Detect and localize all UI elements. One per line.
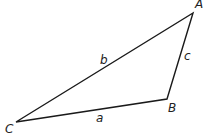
vertex-label-c: C <box>5 122 14 133</box>
triangle-abc <box>16 13 193 122</box>
vertex-label-b: B <box>168 101 176 115</box>
side-label-b: b <box>100 53 108 67</box>
triangle-diagram: A B C a b c <box>0 0 203 133</box>
side-label-a: a <box>96 111 103 125</box>
vertex-label-a: A <box>194 0 203 11</box>
side-label-c: c <box>184 49 191 63</box>
